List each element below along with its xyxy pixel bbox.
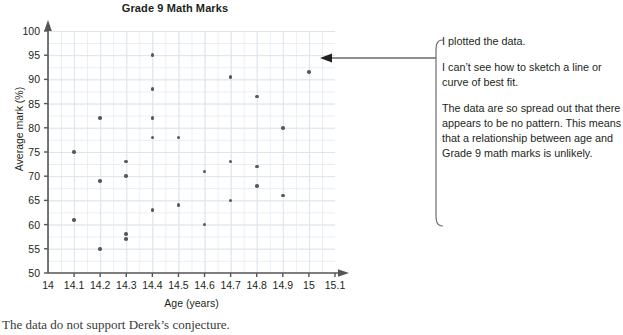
callout-paragraph-3: The data are so spread out that there ap…: [442, 101, 622, 161]
x-tick-label: 15: [303, 279, 315, 291]
callout-text: I plotted the data. I can’t see how to s…: [442, 34, 622, 161]
bottom-caption: The data do not support Derek’s conjectu…: [2, 317, 230, 333]
x-tick-label: 14: [42, 279, 54, 291]
x-tick-label: 14.4: [142, 279, 162, 291]
chart-axes: [0, 0, 360, 310]
x-tick-label: 14.7: [220, 279, 240, 291]
x-tick-label: 14.6: [194, 279, 214, 291]
scatter-plot-figure: Grade 9 Math Marks 505560657075808590951…: [0, 0, 360, 310]
x-axis-title: Age (years): [48, 297, 335, 309]
callout-paragraph-2: I can’t see how to sketch a line or curv…: [442, 60, 622, 90]
x-tick-label: 14.1: [64, 279, 84, 291]
y-tick-label: 100: [16, 25, 40, 37]
x-tick-label: 14.5: [168, 279, 188, 291]
y-tick-label: 60: [16, 219, 40, 231]
callout-paragraph-1: I plotted the data.: [442, 34, 622, 49]
y-tick-label: 50: [16, 267, 40, 279]
x-tick-label: 14.3: [116, 279, 136, 291]
x-tick-label: 14.8: [247, 279, 267, 291]
x-tick-label: 14.9: [273, 279, 293, 291]
x-axis-tick-labels: 1414.114.214.314.414.514.614.714.814.915…: [0, 279, 360, 295]
x-tick-label: 15.1: [325, 279, 345, 291]
callout-bubble: I plotted the data. I can’t see how to s…: [430, 38, 620, 228]
y-axis-title: Average mark (%): [13, 54, 25, 204]
y-tick-label: 55: [16, 243, 40, 255]
x-tick-label: 14.2: [90, 279, 110, 291]
callout-pointer-arrow: [318, 52, 436, 64]
